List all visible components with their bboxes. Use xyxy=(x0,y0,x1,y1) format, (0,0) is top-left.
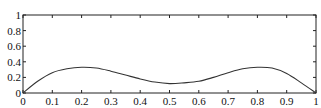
x-tick-label: 0.3 xyxy=(104,95,118,107)
x-tick-label: 0.4 xyxy=(133,95,147,107)
y-axis-ticks: 00.20.40.60.81 xyxy=(7,9,316,99)
x-tick-label: 0.8 xyxy=(251,95,265,107)
y-tick-label: 0.8 xyxy=(7,25,21,37)
y-tick-label: 1 xyxy=(16,9,22,21)
x-tick-label: 0.7 xyxy=(221,95,235,107)
line-chart: 00.10.20.30.40.50.60.70.80.91 00.20.40.6… xyxy=(0,0,321,108)
plot-frame xyxy=(23,15,316,93)
chart-svg: 00.10.20.30.40.50.60.70.80.91 00.20.40.6… xyxy=(0,0,321,108)
y-tick-label: 0.4 xyxy=(7,56,21,68)
x-tick-label: 0.5 xyxy=(163,95,177,107)
y-tick-label: 0.6 xyxy=(7,40,21,52)
x-tick-label: 0 xyxy=(20,95,26,107)
x-tick-label: 0.9 xyxy=(280,95,294,107)
y-tick-label: 0.2 xyxy=(7,71,21,83)
y-tick-label: 0 xyxy=(16,87,22,99)
series-line xyxy=(23,67,316,93)
axes-frame xyxy=(23,15,316,93)
data-series xyxy=(23,67,316,93)
x-tick-label: 0.1 xyxy=(45,95,59,107)
x-tick-label: 1 xyxy=(313,95,319,107)
x-tick-label: 0.2 xyxy=(75,95,89,107)
x-tick-label: 0.6 xyxy=(192,95,206,107)
